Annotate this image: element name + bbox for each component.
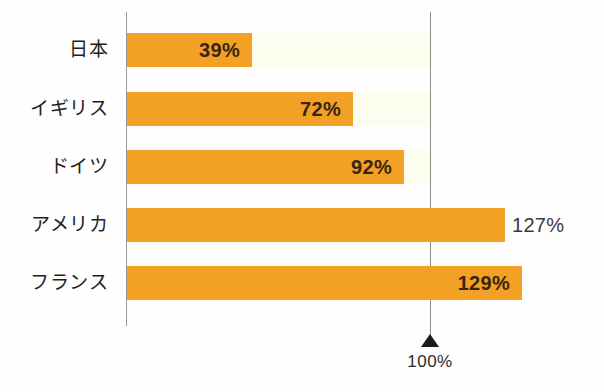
category-label-4: フランス	[30, 273, 108, 292]
value-label-0: 39%	[127, 33, 240, 67]
category-label-3: アメリカ	[31, 215, 108, 234]
category-label-1: イギリス	[30, 99, 108, 118]
category-label-2: ドイツ	[50, 157, 109, 176]
reference-marker-label: 100%	[380, 352, 480, 372]
reference-marker-triangle-icon	[421, 334, 439, 347]
value-label-3: 127%	[512, 208, 564, 242]
value-label-2: 92%	[127, 150, 392, 184]
value-label-4: 129%	[127, 266, 510, 300]
category-label-0: 日本	[69, 40, 108, 59]
bar-3	[127, 208, 505, 242]
bar-chart: 日本 39% イギリス 72% ドイツ 92% アメリカ 127% フランス 1…	[0, 0, 604, 392]
value-label-1: 72%	[127, 92, 341, 126]
